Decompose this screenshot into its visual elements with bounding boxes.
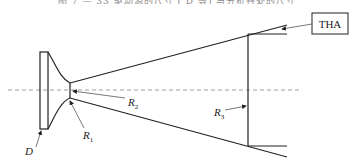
flange: [40, 52, 48, 129]
r3-label: R3: [213, 106, 225, 121]
d-leader: [36, 131, 41, 147]
flare-bottom: [48, 98, 70, 129]
r3-leader: [225, 106, 246, 110]
d-label: D: [24, 145, 33, 157]
r1-label: R1: [82, 129, 94, 144]
flare-top: [48, 52, 70, 83]
tha-label: THA: [319, 18, 342, 30]
cone-bottom: [70, 98, 287, 157]
r2-leader: [73, 91, 125, 98]
r2-label: R2: [127, 96, 139, 111]
r1-leader: [70, 101, 84, 128]
horn-diagram: THA D R1 R2 R3: [0, 0, 358, 168]
